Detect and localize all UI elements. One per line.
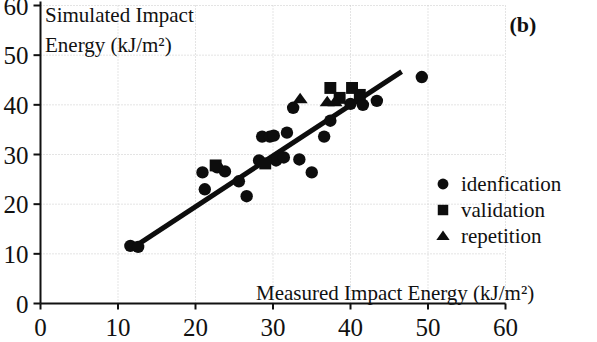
y-tick-label: 10 bbox=[4, 241, 29, 268]
legend-label-validation: validation bbox=[461, 198, 545, 222]
data-point-circle bbox=[371, 95, 383, 107]
y-axis-title-line2: Energy (kJ/m²) bbox=[45, 33, 172, 57]
data-point-square bbox=[354, 89, 366, 101]
data-point-square bbox=[210, 159, 222, 171]
x-tick-label: 10 bbox=[106, 314, 131, 341]
x-tick-label: 30 bbox=[261, 314, 286, 341]
chart-container: 0102030405060 0102030405060 Simulated Im… bbox=[0, 0, 597, 342]
legend-label-idenfication: idenfication bbox=[461, 172, 562, 196]
y-tick-label: 20 bbox=[4, 191, 29, 218]
y-tick-label: 40 bbox=[4, 92, 29, 119]
x-tick-label: 0 bbox=[34, 314, 47, 341]
x-tick-label: 60 bbox=[493, 314, 518, 341]
y-tick-label: 30 bbox=[4, 142, 29, 169]
data-point-circle bbox=[416, 71, 428, 83]
data-point-circle bbox=[324, 115, 336, 127]
data-point-circle bbox=[278, 151, 290, 163]
data-point-circle bbox=[268, 129, 280, 141]
data-point-circle bbox=[240, 190, 252, 202]
x-tick-label: 40 bbox=[338, 314, 363, 341]
x-tick-label: 20 bbox=[183, 314, 208, 341]
data-point-circle bbox=[281, 126, 293, 138]
data-point-circle bbox=[293, 153, 305, 165]
legend-marker-circle bbox=[438, 179, 449, 190]
data-point-circle bbox=[132, 241, 144, 253]
data-point-circle bbox=[233, 175, 245, 187]
x-tick-label: 50 bbox=[416, 314, 441, 341]
data-point-circle bbox=[199, 183, 211, 195]
data-point-circle bbox=[287, 102, 299, 114]
legend-label-repetition: repetition bbox=[461, 224, 542, 248]
x-axis-title: Measured Impact Energy (kJ/m²) bbox=[256, 281, 534, 305]
y-axis-title-line1: Simulated Impact bbox=[45, 3, 194, 27]
data-point-circle bbox=[306, 166, 318, 178]
data-point-circle bbox=[318, 130, 330, 142]
y-tick-label: 0 bbox=[16, 291, 29, 318]
scatter-plot: 0102030405060 0102030405060 Simulated Im… bbox=[0, 0, 597, 342]
y-tick-label: 60 bbox=[4, 0, 29, 20]
data-point-square bbox=[259, 157, 271, 169]
panel-label: (b) bbox=[510, 12, 537, 37]
legend-marker-square bbox=[438, 205, 448, 215]
y-tick-label: 50 bbox=[4, 42, 29, 69]
data-point-circle bbox=[196, 166, 208, 178]
